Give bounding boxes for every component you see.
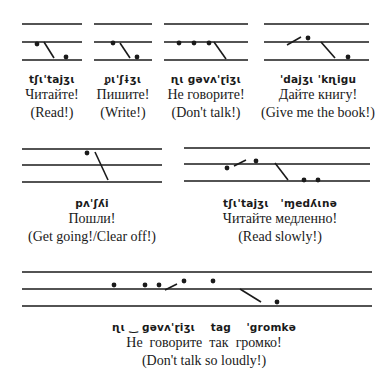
pitch-contour-stroke (321, 42, 335, 58)
syllable-dot (207, 41, 212, 46)
syllable-dot (192, 41, 197, 46)
english-translation: (Write!) (97, 104, 150, 122)
syllable-dot (346, 55, 351, 60)
intonation-staff (22, 149, 162, 182)
intonation-staff (22, 272, 372, 306)
syllable-dot (112, 283, 117, 288)
syllable-dot (64, 55, 69, 60)
transcription: tʃɩ'tajʒɩ 'ɱedʎɩnə (223, 197, 337, 210)
english-translation: (Read!) (25, 104, 79, 122)
example-caption-3: ɳɩ ɡəvʌ'ɽiʒɩ Не говорите! (Don't talk!) (167, 73, 244, 122)
transcription: pʌ'ʃʎi (28, 197, 156, 210)
example-caption-2: ᵱɩ'ʃɨʒɩ Пишите! (Write!) (97, 73, 150, 122)
transcription: 'dajʒɩ 'kɳigu (261, 73, 375, 86)
english-translation: (Give me the book!) (261, 104, 375, 122)
pitch-contour-stroke (240, 289, 261, 302)
pitch-contour-stroke (234, 160, 246, 166)
russian-phrase: Читайте медленно! (223, 210, 337, 228)
example-caption-1: tʃɩ'tajʒɩ Читайте! (Read!) (25, 73, 79, 122)
transcription: ɳɩ ‿ ɡəvʌ'ɽiʒɩ tag 'gromkə (112, 321, 296, 334)
intonation-staff (94, 24, 152, 60)
transcription: tʃɩ'tajʒɩ (25, 73, 79, 86)
english-translation: (Get going!/Clear off!) (28, 228, 156, 246)
russian-phrase: Пишите! (97, 86, 150, 104)
russian-phrase: Пошли! (28, 210, 156, 228)
syllable-dot (143, 283, 148, 288)
russian-phrase: Не говорите! (167, 86, 244, 104)
russian-phrase: Дайте книгу! (261, 86, 375, 104)
russian-phrase: Не говорите так громко! (112, 334, 296, 352)
syllable-dot (275, 300, 280, 305)
pitch-contour-stroke (287, 37, 301, 45)
syllable-dot (302, 178, 307, 183)
syllable-dot (111, 41, 116, 46)
english-translation: (Read slowly!) (223, 228, 337, 246)
syllable-dot (306, 36, 311, 41)
example-caption-4: 'dajʒɩ 'kɳigu Дайте книгу! (Give me the … (261, 73, 375, 122)
syllable-dot (211, 279, 216, 284)
example-caption-5: pʌ'ʃʎi Пошли! (Get going!/Clear off!) (28, 197, 156, 246)
russian-phrase: Читайте! (25, 86, 79, 104)
syllable-dot (135, 55, 140, 60)
syllable-dot (182, 279, 187, 284)
syllable-dot (316, 178, 321, 183)
english-translation: (Don't talk!) (167, 104, 244, 122)
syllable-dot (254, 159, 259, 164)
pitch-contour-stroke (95, 152, 108, 180)
syllable-dot (225, 166, 230, 171)
intonation-staff (264, 24, 369, 60)
pitch-contour-stroke (275, 163, 288, 180)
example-caption-7: ɳɩ ‿ ɡəvʌ'ɽiʒɩ tag 'gromkə Не говорите т… (112, 321, 296, 370)
transcription: ᵱɩ'ʃɨʒɩ (97, 73, 150, 86)
syllable-dot (85, 151, 90, 156)
transcription: ɳɩ ɡəvʌ'ɽiʒɩ (167, 73, 244, 86)
pitch-contour-stroke (120, 43, 130, 58)
syllable-dot (177, 41, 182, 46)
syllable-dot (157, 283, 162, 288)
example-caption-6: tʃɩ'tajʒɩ 'ɱedʎɩnə Читайте медленно! (Re… (223, 197, 337, 246)
syllable-dot (35, 42, 40, 47)
english-translation: (Don't talk so loudly!) (112, 352, 296, 370)
pitch-contour-stroke (214, 42, 226, 59)
intonation-staff (164, 24, 248, 60)
pitch-contour-stroke (44, 42, 54, 58)
